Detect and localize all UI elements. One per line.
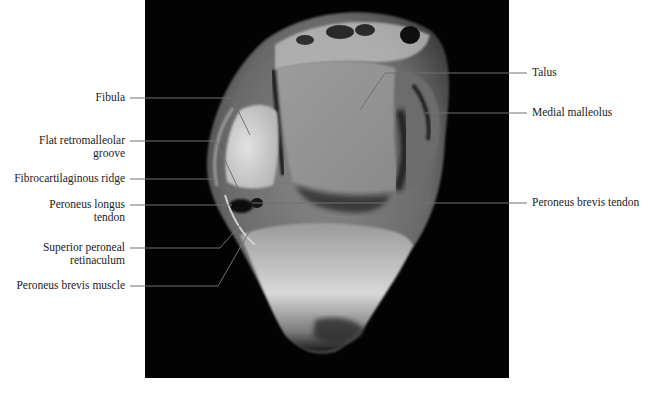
label-peroneus-brevis-tendon: Peroneus brevis tendon: [532, 196, 639, 209]
label-line: retinaculum: [43, 254, 125, 267]
mri-ankle-illustration: [145, 0, 509, 378]
label-peroneus-longus-tendon: Peroneus longus tendon: [49, 198, 125, 224]
label-line: tendon: [49, 211, 125, 224]
label-peroneus-brevis-muscle: Peroneus brevis muscle: [16, 279, 125, 292]
label-line: groove: [39, 147, 125, 160]
label-talus: Talus: [532, 66, 557, 79]
label-medial-malleolus: Medial malleolus: [532, 106, 612, 119]
label-flat-retromalleolar-groove: Flat retromalleolar groove: [39, 134, 125, 160]
label-line: Peroneus longus: [49, 198, 125, 211]
label-line: Peroneus brevis muscle: [16, 279, 125, 292]
label-line: Peroneus brevis tendon: [532, 196, 639, 209]
label-superior-peroneal-retinaculum: Superior peroneal retinaculum: [43, 241, 125, 267]
label-line: Superior peroneal: [43, 241, 125, 254]
label-line: Fibrocartilaginous ridge: [14, 172, 125, 185]
label-line: Talus: [532, 66, 557, 79]
mri-image: [145, 0, 509, 378]
label-fibula: Fibula: [96, 91, 125, 104]
label-fibrocartilaginous-ridge: Fibrocartilaginous ridge: [14, 172, 125, 185]
label-line: Fibula: [96, 91, 125, 104]
label-line: Medial malleolus: [532, 106, 612, 119]
label-line: Flat retromalleolar: [39, 134, 125, 147]
